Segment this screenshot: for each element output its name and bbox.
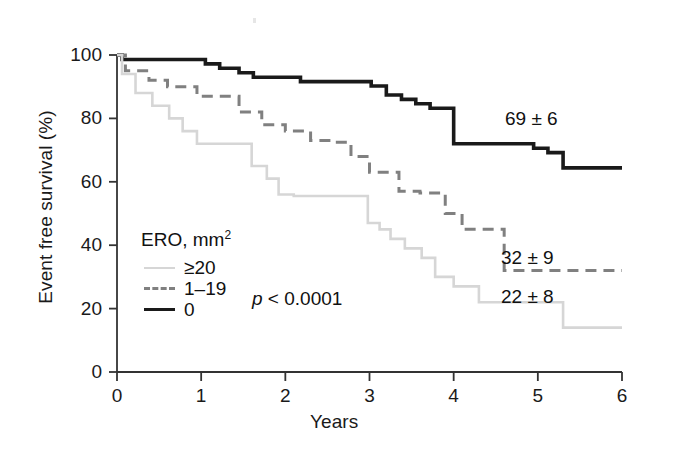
p-value-annotation: p < 0.0001 xyxy=(252,288,342,310)
y-tick-label: 80 xyxy=(46,107,102,129)
series-endpoint-label: 32 ± 9 xyxy=(501,247,554,269)
y-tick-label: 100 xyxy=(46,44,102,66)
y-tick-label: 0 xyxy=(46,361,102,383)
series-endpoint-label: 22 ± 8 xyxy=(501,286,554,308)
x-tick-label: 4 xyxy=(448,385,459,407)
legend-title-text: ERO, mm xyxy=(141,229,224,250)
x-tick-label: 0 xyxy=(112,385,123,407)
legend-item: ≥20 xyxy=(141,257,231,278)
legend-items: ≥201–190 xyxy=(141,257,231,320)
y-tick-label: 40 xyxy=(46,234,102,256)
p-value-rest: < 0.0001 xyxy=(263,288,343,309)
series-endpoint-label: 69 ± 6 xyxy=(505,108,558,130)
legend-title-superscript: 2 xyxy=(224,228,231,242)
y-tick-label: 20 xyxy=(46,298,102,320)
legend-item-label: ≥20 xyxy=(184,257,216,279)
legend-swatch xyxy=(144,267,175,269)
legend-item: 1–19 xyxy=(141,278,231,299)
p-value-symbol: p xyxy=(252,288,263,309)
x-tick-label: 5 xyxy=(533,385,544,407)
x-tick-label: 3 xyxy=(364,385,375,407)
legend-swatch xyxy=(144,308,175,311)
plot-area xyxy=(0,0,676,452)
x-tick-label: 1 xyxy=(196,385,207,407)
x-tick-label: 6 xyxy=(617,385,628,407)
survival-curve-figure: Event free survival (%) Years 0204060801… xyxy=(0,0,676,452)
legend-swatch xyxy=(144,287,175,290)
x-tick-label: 2 xyxy=(280,385,291,407)
axis-lines xyxy=(109,55,622,381)
legend-title: ERO, mm2 xyxy=(141,228,231,251)
legend-item: 0 xyxy=(141,299,231,320)
legend-item-label: 1–19 xyxy=(184,278,226,300)
legend: ERO, mm2 ≥201–190 xyxy=(141,228,231,320)
y-tick-label: 60 xyxy=(46,171,102,193)
x-axis-label: Years xyxy=(310,411,358,433)
legend-item-label: 0 xyxy=(184,299,195,321)
